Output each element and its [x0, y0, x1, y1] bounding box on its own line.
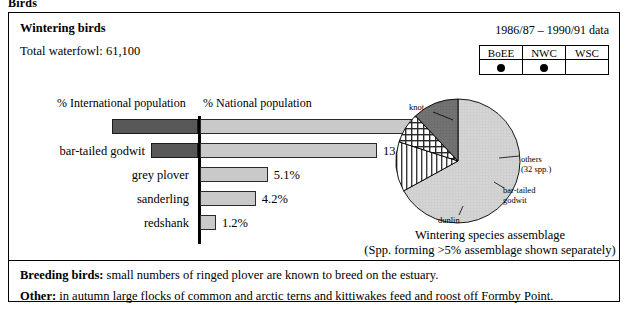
pie-label-others: others (32 spp.): [521, 155, 551, 174]
breeding-birds-line: Breeding birds: small numbers of ringed …: [20, 268, 438, 283]
bar-value-right-sanderling: 4.2%: [262, 192, 288, 207]
wintering-birds-panel: Wintering birds Total waterfowl: 61,100 …: [8, 12, 620, 302]
pie-label-knot: knot: [409, 103, 424, 113]
filled-circle-icon: [540, 64, 548, 72]
col-header-boee: BoEE: [480, 46, 523, 60]
bar-value-right-grey-plover: 5.1%: [274, 168, 300, 183]
bar-label-bar-tailed-godwit: bar-tailed godwit: [60, 144, 146, 159]
bar-row-redshank: redshank 1.2%: [17, 214, 377, 232]
bar-international-knot: [112, 119, 198, 134]
total-waterfowl-line: Total waterfowl: 61,100: [20, 44, 140, 59]
pie-label-dunlin: dunlin: [438, 216, 460, 226]
col-header-wsc: WSC: [566, 46, 609, 60]
bar-label-sanderling: sanderling: [137, 192, 189, 207]
pie-caption: Wintering species assemblage (Spp. formi…: [351, 228, 628, 258]
page-heading: Birds: [8, 0, 37, 11]
pie-slices: [396, 99, 520, 223]
bar-label-redshank: redshank: [144, 216, 189, 231]
bar-row-sanderling: sanderling 4.2%: [17, 190, 377, 208]
col-header-nwc: NWC: [523, 46, 566, 60]
bar-international-bar-tailed-godwit: [151, 143, 198, 158]
section-divider: [9, 260, 619, 261]
assemblage-pie-chart: knot others (32 spp.) bar-tailedgodwit d…: [381, 98, 628, 258]
bar-row-grey-plover: grey plover 5.1%: [17, 166, 377, 184]
pie-svg: [381, 98, 628, 230]
panel-title: Wintering birds: [20, 21, 106, 36]
cell-wsc: [566, 60, 609, 75]
bar-national-grey-plover: [200, 167, 268, 182]
bar-national-bar-tailed-godwit: [200, 143, 377, 158]
bar-chart-left-header: % International population: [57, 96, 186, 111]
bar-national-redshank: [200, 215, 216, 230]
pie-label-others-note: (32 spp.): [521, 164, 551, 174]
data-years-label: 1986/87 – 1990/91 data: [495, 23, 609, 38]
pie-caption-title: Wintering species assemblage: [351, 228, 628, 243]
pie-label-others-text: others: [521, 154, 542, 164]
table-row: [480, 60, 609, 75]
bar-row-bar-tailed-godwit: bar-tailed godwit 7% 13.3%: [17, 142, 377, 160]
bar-national-sanderling: [200, 191, 256, 206]
table-header-row: BoEE NWC WSC: [480, 46, 609, 60]
other-label: Other:: [20, 289, 56, 303]
bar-row-knot: knot 12.9% 18.8%: [17, 118, 377, 136]
cell-boee: [480, 60, 523, 75]
filled-circle-icon: [497, 64, 505, 72]
breeding-birds-label: Breeding birds:: [20, 268, 103, 282]
other-line: Other: in autumn large flocks of common …: [20, 289, 553, 304]
bar-value-right-redshank: 1.2%: [222, 216, 248, 231]
population-bar-chart: % International population % National po…: [17, 96, 377, 246]
bar-label-grey-plover: grey plover: [132, 168, 189, 183]
bar-chart-right-header: % National population: [203, 96, 312, 111]
pie-caption-subtitle: (Spp. forming >5% assemblage shown separ…: [351, 243, 628, 258]
cell-nwc: [523, 60, 566, 75]
breeding-birds-text: small numbers of ringed plover are known…: [103, 268, 438, 282]
other-text: in autumn large flocks of common and arc…: [56, 289, 553, 303]
pie-label-bar-tailed-godwit: bar-tailedgodwit: [503, 186, 535, 205]
survey-coverage-table: BoEE NWC WSC: [479, 45, 609, 75]
